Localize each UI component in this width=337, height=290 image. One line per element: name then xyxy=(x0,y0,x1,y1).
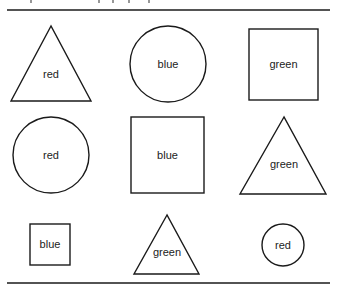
shape-circle-red: red xyxy=(13,117,89,193)
triangle-shape xyxy=(134,215,199,274)
shape-label: blue xyxy=(158,58,179,70)
shape-triangle-red: red xyxy=(11,26,91,101)
shape-circle-red-small: red xyxy=(262,224,304,266)
shape-label: blue xyxy=(157,149,178,161)
triangle-shape xyxy=(11,26,91,101)
triangle-shape xyxy=(240,117,326,194)
shape-triangle-green-small: green xyxy=(134,215,199,274)
shape-label: blue xyxy=(40,238,61,250)
shape-label: red xyxy=(275,239,291,251)
shape-square-blue: blue xyxy=(131,117,204,193)
shape-square-green: green xyxy=(249,29,318,100)
clipped-caption-fragment xyxy=(30,0,150,3)
shape-label: green xyxy=(153,246,181,258)
shape-square-blue-small: blue xyxy=(30,224,70,265)
shape-label: green xyxy=(269,58,297,70)
shapes-diagram: red blue green red blue green blue green… xyxy=(0,0,337,290)
shape-label: red xyxy=(43,68,59,80)
shape-label: red xyxy=(43,149,59,161)
shape-circle-blue: blue xyxy=(130,26,206,102)
shape-triangle-green: green xyxy=(240,117,326,194)
shape-label: green xyxy=(270,158,298,170)
